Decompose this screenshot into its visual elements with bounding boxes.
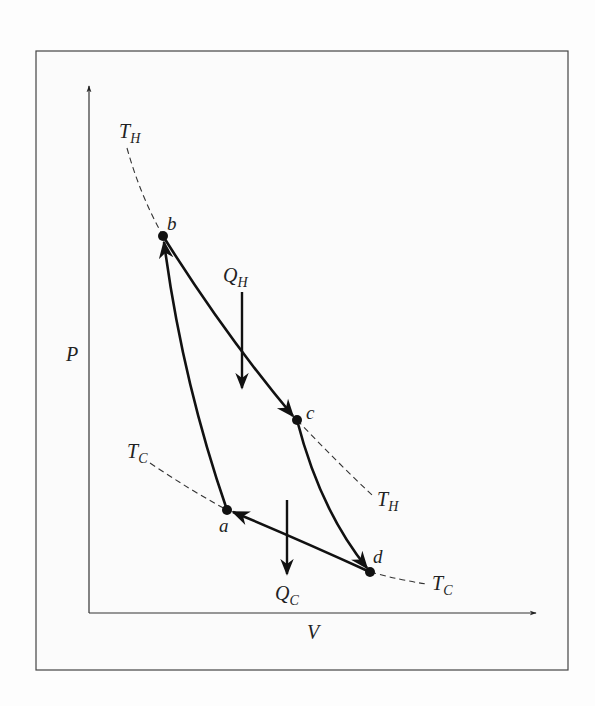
y-axis-label: P <box>65 343 78 365</box>
point-a <box>222 505 232 515</box>
label-c: c <box>306 402 315 423</box>
label-b: b <box>167 213 177 234</box>
point-c <box>292 415 302 425</box>
carnot-pv-diagram: b c a d P V TH TH TC TC QH QC <box>0 0 595 706</box>
figure-frame <box>36 51 568 670</box>
point-d <box>365 567 375 577</box>
label-a: a <box>219 515 229 536</box>
label-d: d <box>373 546 383 567</box>
